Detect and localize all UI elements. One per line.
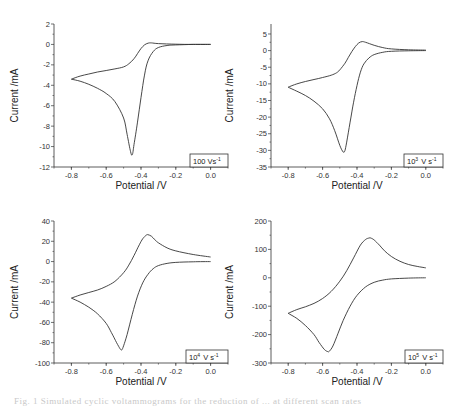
y-tick-label: -15 [256, 96, 267, 105]
cv-curve-reverse-scan [288, 42, 426, 88]
figure-canvas: 20-2-4-6-8-10-12-0.8-0.6-0.4-0.20.0Curre… [0, 0, 461, 407]
cv-curve-reverse-scan [288, 238, 426, 313]
y-tick-label: -4 [43, 81, 50, 90]
x-tick-label: -0.6 [316, 171, 329, 180]
y-tick-label: -12 [39, 163, 50, 172]
y-tick-label: -10 [256, 79, 267, 88]
y-tick-label: -30 [256, 146, 267, 155]
y-tick-label: -100 [252, 302, 267, 311]
x-tick-label: -0.6 [100, 367, 113, 376]
y-axis-title: Current /mA [224, 265, 235, 319]
y-tick-label: -35 [256, 163, 267, 172]
x-tick-label: 0.0 [421, 367, 431, 376]
y-tick-label: -300 [252, 359, 267, 368]
y-tick-label: 2 [46, 20, 50, 29]
y-tick-label: -6 [43, 101, 50, 110]
chart-panel-100: 20-2-4-6-8-10-12-0.8-0.6-0.4-0.20.0Curre… [9, 20, 228, 191]
y-axis-title: Current /mA [224, 68, 235, 122]
x-axis-title: Potential /V [115, 376, 166, 387]
cv-curve-forward-scan [71, 44, 210, 155]
x-axis-title: Potential /V [331, 180, 382, 191]
y-tick-label: 100 [254, 245, 267, 254]
x-tick-label: -0.2 [385, 367, 398, 376]
y-tick-label: -100 [35, 359, 50, 368]
y-tick-label: 40 [42, 217, 50, 226]
x-tick-label: -0.4 [351, 367, 364, 376]
y-tick-label: -60 [39, 318, 50, 327]
y-axis-title: Current /mA [9, 265, 20, 319]
y-tick-label: 0 [263, 46, 267, 55]
y-tick-label: -20 [256, 113, 267, 122]
y-tick-label: 0 [263, 273, 267, 282]
cv-curve-forward-scan [288, 51, 426, 153]
cv-curve-reverse-scan [71, 43, 210, 79]
x-tick-label: -0.2 [385, 171, 398, 180]
x-tick-label: 0.0 [205, 171, 215, 180]
figure-caption: Fig. 1 Simulated cyclic voltammograms fo… [14, 396, 454, 406]
y-axis-title: Current /mA [9, 68, 20, 122]
y-tick-label: 0 [46, 40, 50, 49]
x-tick-label: -0.2 [169, 171, 182, 180]
chart-panel-1e3: 50-5-10-15-20-25-30-35-0.8-0.6-0.4-0.20.… [224, 24, 443, 191]
x-tick-label: -0.8 [282, 171, 295, 180]
chart-panel-1e4: 40200-20-40-60-80-100-0.8-0.6-0.4-0.20.0… [9, 217, 228, 387]
x-tick-label: 0.0 [421, 171, 431, 180]
x-tick-label: -0.2 [169, 367, 182, 376]
y-tick-label: 0 [46, 257, 50, 266]
cv-curve-forward-scan [71, 262, 210, 350]
y-tick-label: -25 [256, 129, 267, 138]
y-tick-label: -5 [260, 63, 267, 72]
y-tick-label: -40 [39, 298, 50, 307]
y-tick-label: -20 [39, 277, 50, 286]
y-tick-label: -200 [252, 330, 267, 339]
y-tick-label: 5 [263, 30, 267, 39]
x-tick-label: -0.8 [65, 171, 78, 180]
y-tick-label: -8 [43, 122, 50, 131]
x-tick-label: -0.4 [135, 171, 148, 180]
x-tick-label: -0.6 [316, 367, 329, 376]
x-tick-label: -0.6 [100, 171, 113, 180]
y-tick-label: 20 [42, 237, 50, 246]
y-tick-label: -2 [43, 60, 50, 69]
cv-curve-forward-scan [288, 278, 426, 352]
x-axis-title: Potential /V [331, 376, 382, 387]
cv-curve-reverse-scan [71, 235, 210, 299]
y-tick-label: 200 [254, 217, 267, 226]
x-tick-label: -0.8 [282, 367, 295, 376]
x-tick-label: -0.4 [351, 171, 364, 180]
x-tick-label: -0.4 [135, 367, 148, 376]
chart-panel-1e5: 2001000-100-200-300-0.8-0.6-0.4-0.20.0Cu… [224, 217, 443, 387]
x-tick-label: 0.0 [205, 367, 215, 376]
x-tick-label: -0.8 [65, 367, 78, 376]
y-tick-label: -10 [39, 142, 50, 151]
x-axis-title: Potential /V [115, 180, 166, 191]
y-tick-label: -80 [39, 338, 50, 347]
